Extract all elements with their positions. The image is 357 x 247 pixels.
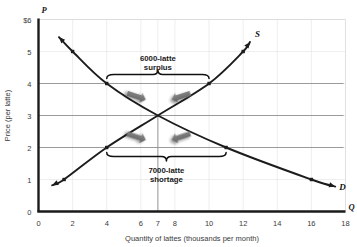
demand-point bbox=[105, 82, 108, 85]
supply-demand-chart: 0246781012141618 012345$6 SDPQQuantity o… bbox=[0, 0, 357, 247]
price-axis-letter: P bbox=[42, 5, 48, 15]
y-tick-label: 5 bbox=[27, 48, 31, 57]
demand-point bbox=[310, 178, 313, 181]
supply-curve-label: S bbox=[255, 29, 260, 39]
shortage-label-line2: shortage bbox=[150, 175, 184, 184]
supply-point bbox=[105, 146, 108, 149]
x-tick-label: 12 bbox=[239, 219, 247, 228]
x-tick-label: 14 bbox=[273, 219, 281, 228]
x-tick-label: 0 bbox=[36, 219, 40, 228]
surplus-label-line1: 6000-latte bbox=[140, 54, 177, 63]
x-tick-label: 8 bbox=[173, 219, 177, 228]
y-tick-label: $6 bbox=[23, 16, 31, 25]
x-tick-label: 2 bbox=[71, 219, 75, 228]
demand-point bbox=[71, 50, 74, 53]
y-tick-label: 1 bbox=[27, 176, 31, 185]
x-axis-title: Quantity of lattes (thousands per month) bbox=[125, 234, 259, 243]
quantity-axis-letter: Q bbox=[349, 202, 355, 212]
supply-point bbox=[207, 82, 210, 85]
demand-point bbox=[224, 146, 227, 149]
chart-background bbox=[0, 0, 357, 247]
y-tick-label: 2 bbox=[27, 144, 31, 153]
x-tick-label: 10 bbox=[205, 219, 213, 228]
x-tick-label: 18 bbox=[341, 219, 349, 228]
x-tick-label: 4 bbox=[105, 219, 109, 228]
x-tick-label: 6 bbox=[139, 219, 143, 228]
supply-point bbox=[241, 50, 244, 53]
chart-canvas: 0246781012141618 012345$6 SDPQQuantity o… bbox=[0, 0, 357, 247]
demand-curve-label: D bbox=[338, 182, 346, 192]
x-tick-label: 16 bbox=[307, 219, 315, 228]
y-tick-label: 4 bbox=[27, 80, 31, 89]
shortage-label-line1: 7000-latte bbox=[148, 166, 185, 175]
x-tick-label: 7 bbox=[156, 219, 160, 228]
y-tick-label: 0 bbox=[27, 208, 31, 217]
supply-point bbox=[62, 178, 65, 181]
y-tick-label: 3 bbox=[27, 112, 31, 121]
surplus-label-line2: surplus bbox=[144, 63, 173, 72]
y-axis-title: Price (per latte) bbox=[3, 89, 12, 141]
